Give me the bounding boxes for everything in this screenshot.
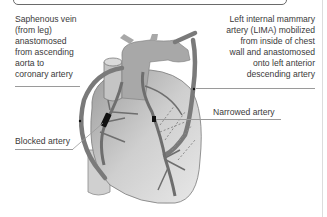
- blocked-leader-diagonal: [0, 0, 327, 217]
